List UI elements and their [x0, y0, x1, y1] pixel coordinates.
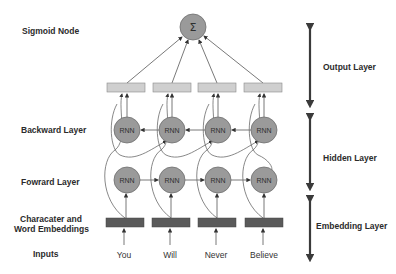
embedding-box	[245, 218, 283, 227]
rnn-node: RNN	[114, 117, 140, 143]
label-embeddings-line1: Characater and	[20, 214, 82, 224]
rnn-node: RNN	[114, 167, 140, 193]
input-word: You	[117, 250, 132, 260]
label-hidden-layer: Hidden Layer	[323, 153, 378, 163]
sigma-icon: Σ	[190, 21, 197, 34]
rnn-node: RNN	[205, 117, 231, 143]
label-sigmoid-node: Sigmoid Node	[22, 26, 79, 36]
backward-to-output-edges	[127, 94, 264, 117]
svg-text:RNN: RNN	[210, 127, 225, 134]
left-labels: Sigmoid Node Backward Layer Fowrard Laye…	[14, 26, 89, 259]
label-forward-layer: Fowrard Layer	[21, 177, 80, 187]
embedding-layer-boxes	[106, 218, 283, 227]
input-word: Never	[205, 250, 228, 260]
output-to-sigmoid-edges	[127, 36, 263, 83]
label-embeddings-line2: Word Embeddings	[14, 224, 89, 234]
label-inputs: Inputs	[33, 249, 59, 259]
rnn-node: RNN	[251, 167, 277, 193]
label-embedding-layer: Embedding Layer	[316, 221, 388, 231]
svg-text:RNN: RNN	[210, 177, 225, 184]
label-backward-layer: Backward Layer	[21, 125, 87, 135]
output-box	[153, 83, 191, 92]
svg-text:RNN: RNN	[256, 127, 271, 134]
svg-text:RNN: RNN	[164, 127, 179, 134]
rnn-node: RNN	[205, 167, 231, 193]
svg-text:RNN: RNN	[164, 177, 179, 184]
input-word: Believe	[250, 250, 278, 260]
embedding-box	[152, 218, 190, 227]
output-box	[198, 83, 236, 92]
sigmoid-node: Σ	[180, 14, 206, 40]
input-word: Will	[163, 250, 177, 260]
curved-connections	[105, 94, 272, 218]
embedding-box	[198, 218, 236, 227]
rnn-node: RNN	[159, 167, 185, 193]
output-box	[107, 83, 145, 92]
label-output-layer: Output Layer	[323, 62, 377, 72]
input-words: You Will Never Believe	[117, 250, 278, 260]
right-labels: Output Layer Hidden Layer Embedding Laye…	[316, 62, 388, 231]
svg-text:RNN: RNN	[119, 177, 134, 184]
output-layer-boxes	[107, 83, 282, 92]
output-box	[244, 83, 282, 92]
rnn-node: RNN	[251, 117, 277, 143]
embedding-to-forward-edges	[126, 194, 264, 218]
rnn-node: RNN	[159, 117, 185, 143]
bidirectional-rnn-diagram: Sigmoid Node Backward Layer Fowrard Laye…	[0, 0, 396, 274]
svg-text:RNN: RNN	[256, 177, 271, 184]
svg-text:RNN: RNN	[119, 127, 134, 134]
embedding-box	[106, 218, 144, 227]
input-to-embedding-edges	[124, 229, 263, 245]
